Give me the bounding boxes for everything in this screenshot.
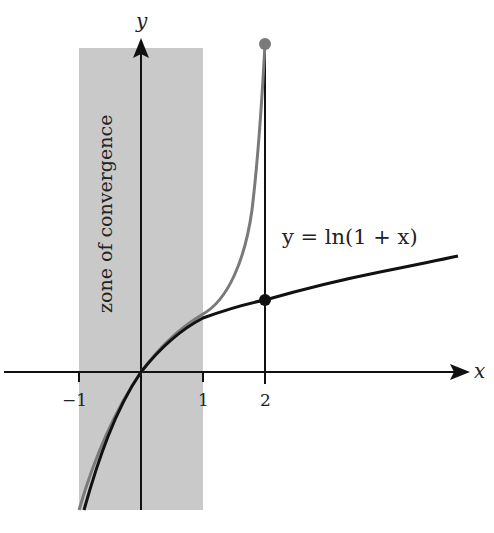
ln3-point xyxy=(259,294,271,306)
tick-label-m1: −1 xyxy=(62,390,87,410)
y-axis-label: y xyxy=(135,9,148,33)
curve-equation-label: y = ln(1 + x) xyxy=(281,225,418,249)
zone-label: zone of convergence xyxy=(94,115,116,313)
tick-label-2: 2 xyxy=(260,390,271,410)
tick-label-1: 1 xyxy=(198,390,209,410)
chart: zone of convergence x y −1 1 2 y = ln(1 … xyxy=(0,0,494,533)
x-axis-label: x xyxy=(474,359,485,383)
polynomial-endpoint xyxy=(259,38,271,50)
